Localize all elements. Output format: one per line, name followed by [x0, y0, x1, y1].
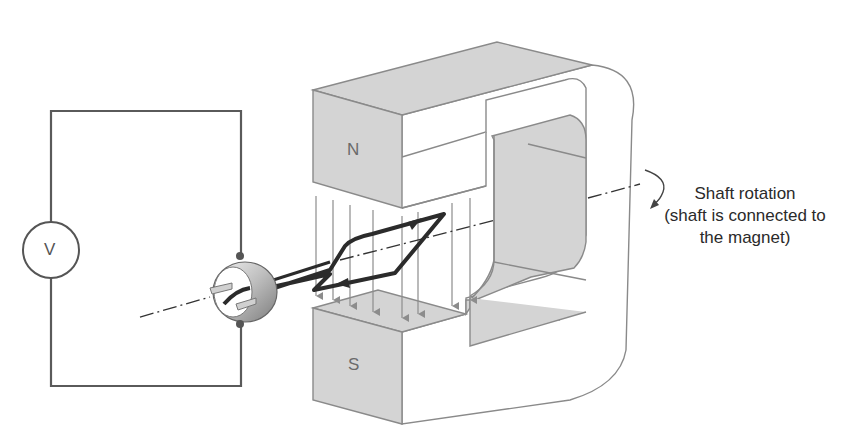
slip-rings — [210, 252, 277, 328]
north-pole-label: N — [347, 140, 359, 160]
caption-line-3: the magnet) — [630, 227, 860, 249]
current-arrow-forward-icon — [408, 218, 422, 230]
caption-line-2: (shaft is connected to — [630, 205, 860, 227]
voltmeter-label: V — [44, 240, 55, 260]
brush-contact-bottom — [236, 320, 244, 328]
horseshoe-magnet — [313, 42, 634, 424]
caption-line-1: Shaft rotation — [630, 183, 860, 205]
shaft-rotation-caption: Shaft rotation (shaft is connected to th… — [630, 183, 860, 249]
south-pole-label: S — [348, 355, 359, 375]
brush-contact-top — [236, 252, 244, 260]
